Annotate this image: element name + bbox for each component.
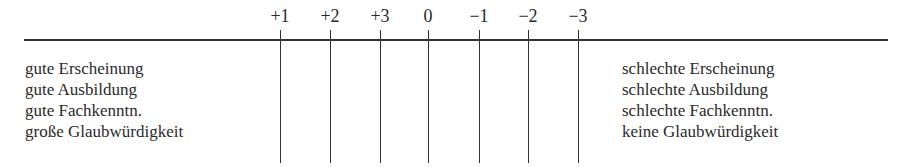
list-item: gute Ausbildung xyxy=(25,79,183,100)
scale-column-line xyxy=(330,30,331,163)
scale-label-minus-1: −1 xyxy=(469,6,488,26)
list-item: schlechte Fachkenntn. xyxy=(622,100,778,121)
list-item: gute Erscheinung xyxy=(25,58,183,79)
scale-column-line xyxy=(380,30,381,163)
scale-column-line xyxy=(578,30,579,163)
scale-label-minus-3: −3 xyxy=(568,6,587,26)
scale-label-minus-2: −2 xyxy=(518,6,537,26)
scale-column-line xyxy=(479,30,480,163)
scale-column-line xyxy=(428,30,429,163)
negative-adjectives-list: schlechte Erscheinung schlechte Ausbildu… xyxy=(622,58,778,142)
list-item: gute Fachkenntn. xyxy=(25,100,183,121)
list-item: keine Glaubwürdigkeit xyxy=(622,121,778,142)
scale-label-plus-3: +3 xyxy=(370,6,389,26)
list-item: schlechte Ausbildung xyxy=(622,79,778,100)
list-item: schlechte Erscheinung xyxy=(622,58,778,79)
scale-label-plus-1: +1 xyxy=(270,6,289,26)
scale-column-line xyxy=(528,30,529,163)
scale-label-zero: 0 xyxy=(424,6,433,26)
scale-column-line xyxy=(280,30,281,163)
positive-adjectives-list: gute Erscheinung gute Ausbildung gute Fa… xyxy=(25,58,183,142)
list-item: große Glaubwürdigkeit xyxy=(25,121,183,142)
header-rule xyxy=(24,39,888,41)
scale-label-plus-2: +2 xyxy=(320,6,339,26)
